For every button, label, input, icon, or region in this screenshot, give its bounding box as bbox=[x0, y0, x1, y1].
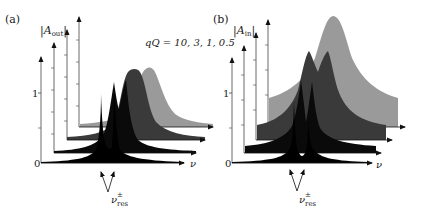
svg-text:±: ± bbox=[117, 191, 123, 199]
panel-a-tick-one: 1 bbox=[32, 88, 38, 99]
panel-a-tick-zero: 0 bbox=[34, 158, 40, 169]
panel-b-resonance-arrows bbox=[290, 170, 304, 191]
qQ-annotation: qQ = 10, 3, 1, 0.5 bbox=[145, 37, 235, 48]
figure: (a) bbox=[0, 0, 426, 222]
panel-a-x-label: ν bbox=[190, 158, 196, 169]
svg-text:|Ain|: |Ain| bbox=[233, 24, 255, 38]
svg-text:|Aout|: |Aout| bbox=[40, 24, 67, 38]
panel-b-tick-one: 1 bbox=[223, 88, 229, 99]
panel-b-label: (b) bbox=[213, 13, 229, 26]
svg-text:±: ± bbox=[305, 191, 311, 199]
panel-a-resonance-arrows bbox=[101, 172, 114, 192]
panel-a-label: (a) bbox=[5, 13, 20, 26]
panel-b-tick-zero: 0 bbox=[225, 158, 231, 169]
panel-a: (a) bbox=[5, 13, 235, 208]
panel-b-resonance-label: νres ± bbox=[299, 191, 317, 208]
panel-a-resonance-label: νres ± bbox=[111, 191, 129, 208]
panel-b-y-label: |Ain| bbox=[233, 24, 255, 38]
panel-b-x-label: ν bbox=[376, 159, 382, 170]
panel-b: (b) bbox=[213, 13, 405, 208]
panel-a-y-label: |Aout| bbox=[40, 24, 67, 38]
